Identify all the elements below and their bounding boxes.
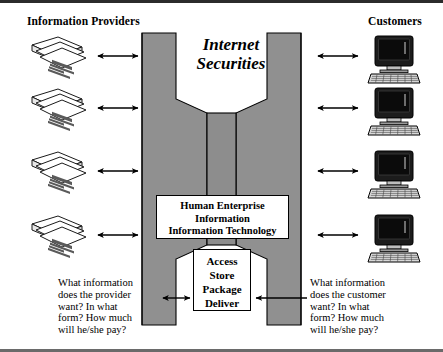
funnel-title: Internet Securities: [176, 35, 286, 73]
access-store-box: Access Store Package Deliver: [193, 249, 251, 311]
provider-question-line-1: What information: [58, 277, 163, 289]
document-stack-icon-2: [32, 89, 86, 131]
desktop-computer-icon-4: [368, 215, 420, 262]
diagram-frame: Information Providers Customers Internet…: [0, 0, 443, 352]
human-enterprise-line-2: Information: [157, 213, 288, 226]
provider-question-line-2: does the provider: [58, 289, 163, 301]
document-stack-icon-3: [32, 152, 86, 194]
left-section-heading: Information Providers: [27, 15, 140, 27]
customer-question-line-1: What information: [310, 277, 418, 289]
funnel-title-line-2: Securities: [176, 54, 286, 73]
provider-question-line-4: form? How much: [58, 312, 163, 324]
customer-question-line-3: want? In what: [310, 301, 418, 313]
desktop-computer-icon-1: [368, 36, 420, 83]
human-enterprise-box: Human Enterprise Information Information…: [156, 195, 289, 239]
document-stack-icon-4: [32, 216, 86, 258]
diagram-canvas: Information Providers Customers Internet…: [0, 3, 443, 352]
desktop-computer-icon-3: [368, 151, 420, 198]
access-store-line-3: Package: [194, 282, 250, 296]
left-connector-arrows: [98, 56, 138, 235]
customer-question-text: What information does the customer want?…: [310, 277, 418, 336]
customer-question-line-2: does the customer: [310, 289, 418, 301]
right-section-heading: Customers: [368, 15, 422, 27]
provider-question-line-3: want? In what: [58, 301, 163, 313]
customer-question-line-5: will he/she pay?: [310, 324, 418, 336]
desktop-computer-icon-2: [368, 88, 420, 135]
document-stack-icon-1: [32, 37, 86, 79]
right-connector-arrows: [318, 56, 358, 235]
access-store-line-2: Store: [194, 268, 250, 282]
provider-question-text: What information does the provider want?…: [58, 277, 163, 336]
access-store-line-1: Access: [194, 254, 250, 268]
provider-question-line-5: will he/she pay?: [58, 324, 163, 336]
customer-question-line-4: form? How much: [310, 312, 418, 324]
access-store-line-4: Deliver: [194, 296, 250, 310]
funnel-title-line-1: Internet: [176, 35, 286, 54]
human-enterprise-line-1: Human Enterprise: [157, 200, 288, 213]
human-enterprise-line-3: Information Technology: [157, 225, 288, 238]
